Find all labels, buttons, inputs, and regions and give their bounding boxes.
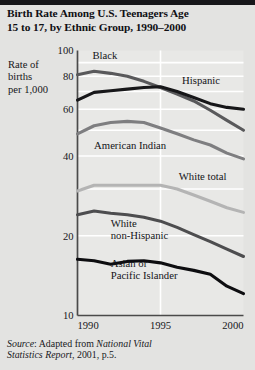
source-publication-a: National Vital xyxy=(96,338,152,349)
series-label-line: Hispanic xyxy=(182,74,220,86)
y-tick-label: 20 xyxy=(63,231,74,242)
source-prefix: Source xyxy=(7,338,34,349)
x-tick-label: 1995 xyxy=(150,320,171,331)
source-text-a: : Adapted from xyxy=(34,338,96,349)
series-label: Black xyxy=(92,49,118,61)
figure-title-line-1: Birth Rate Among U.S. Teenagers Age xyxy=(7,7,251,21)
top-rule xyxy=(0,0,255,5)
y-tick-label: 40 xyxy=(63,151,74,162)
series-label-line: American Indian xyxy=(94,139,167,151)
series-label-line: White xyxy=(111,217,137,229)
figure-title: Birth Rate Among U.S. Teenagers Age 15 t… xyxy=(7,7,251,34)
source-citation: Source: Adapted from National Vital Stat… xyxy=(7,338,249,361)
x-tick-label: 1990 xyxy=(78,320,99,331)
series-label: White total xyxy=(179,170,227,182)
source-line-2: Statistics Report, 2001, p.5. xyxy=(7,349,249,360)
series-label-line: non-Hispanic xyxy=(111,229,169,241)
plot-area: 1008060402010 199019952000 BlackHispanic… xyxy=(0,42,255,330)
line-chart: 1008060402010 199019952000 BlackHispanic… xyxy=(0,42,255,330)
series-label-line: Pacific Islander xyxy=(111,269,178,281)
source-publication-b: Statistics Report xyxy=(7,349,72,360)
series-label: Hispanic xyxy=(182,74,220,86)
series-label: American Indian xyxy=(94,139,167,151)
y-tick-label: 80 xyxy=(63,71,74,82)
y-tick-label: 60 xyxy=(63,104,74,115)
x-tick-label: 2000 xyxy=(222,320,243,331)
series-label-line: Black xyxy=(92,49,118,61)
x-axis-tick-labels: 199019952000 xyxy=(78,320,244,331)
y-axis-tick-labels: 1008060402010 xyxy=(58,45,74,321)
y-tick-label: 100 xyxy=(58,45,74,56)
y-tick-label: 10 xyxy=(63,310,74,321)
source-text-b: , 2001, p.5. xyxy=(72,349,116,360)
source-line-1: Source: Adapted from National Vital xyxy=(7,338,249,349)
series-label-line: Asian or xyxy=(111,257,148,269)
figure-panel: Birth Rate Among U.S. Teenagers Age 15 t… xyxy=(0,0,255,370)
figure-title-line-2: 15 to 17, by Ethnic Group, 1990–2000 xyxy=(7,21,251,35)
series-label-line: White total xyxy=(179,170,227,182)
